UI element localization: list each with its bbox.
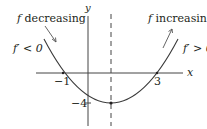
tick-label-neg4: −4 [71, 98, 87, 109]
tick-label-3: 3 [154, 76, 161, 87]
f-decreasing-label: f decreasing [17, 13, 86, 24]
f-prime-negative: f′ < 0 [13, 43, 43, 54]
x-axis-label: x [187, 67, 193, 78]
decreasing-arrow-shaft [45, 26, 56, 42]
decreasing-text: decreasing [21, 12, 86, 25]
f-increasing-label: f increasing [148, 13, 207, 24]
increasing-text: increasing [152, 12, 207, 25]
root-3 [156, 72, 158, 74]
f-prime-positive: f′ > 0 [183, 43, 207, 54]
increasing-arrow-shaft [163, 29, 172, 48]
vertex-point [109, 101, 112, 104]
y-axis-label: y [85, 3, 91, 13]
tick-label-neg1: −1 [54, 76, 70, 87]
root-neg1 [62, 72, 64, 74]
